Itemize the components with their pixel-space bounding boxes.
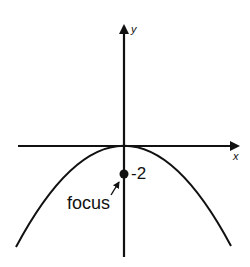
focus-label: focus [67,193,110,214]
focus-pointer-arrow [111,182,119,195]
y-axis-label: y [131,23,137,35]
focus-point [120,170,129,179]
focus-value-label: -2 [131,164,146,184]
parabola-diagram [0,0,250,267]
x-axis-label: x [233,150,239,162]
